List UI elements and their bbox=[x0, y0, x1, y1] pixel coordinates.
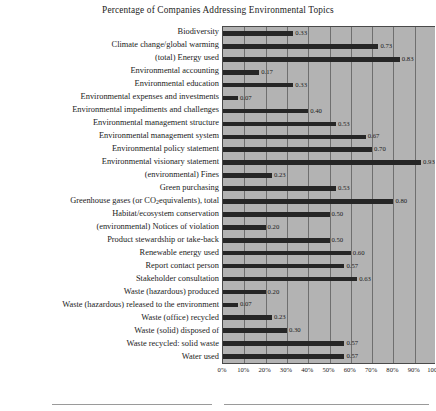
bar bbox=[223, 238, 330, 243]
bar-row: 0.80 bbox=[223, 195, 435, 208]
bar bbox=[223, 212, 330, 217]
bar bbox=[223, 96, 238, 101]
bar-value-label: 0.23 bbox=[274, 314, 286, 321]
category-label: Biodiversity bbox=[0, 26, 222, 39]
bar-row: 0.53 bbox=[223, 182, 435, 195]
x-tick-label: 60% bbox=[344, 366, 356, 373]
bar-value-label: 0.30 bbox=[289, 327, 301, 334]
chart-page: Percentage of Companies Addressing Envir… bbox=[0, 0, 436, 411]
category-label: Waste (hazardous) released to the enviro… bbox=[0, 299, 222, 312]
bar bbox=[223, 303, 238, 308]
bar-value-label: 0.53 bbox=[338, 185, 350, 192]
x-tick-label: 70% bbox=[365, 366, 377, 373]
bar-value-label: 0.50 bbox=[332, 237, 344, 244]
bar-value-label: 0.63 bbox=[359, 276, 371, 283]
bar-value-label: 0.57 bbox=[346, 263, 358, 270]
bar-row: 0.83 bbox=[223, 53, 435, 66]
bar bbox=[223, 57, 400, 62]
bar-value-label: 0.33 bbox=[295, 82, 307, 89]
bar-value-label: 0.67 bbox=[368, 133, 380, 140]
bar-value-label: 0.33 bbox=[295, 30, 307, 37]
bar-row: 0.20 bbox=[223, 221, 435, 234]
bar-value-label: 0.07 bbox=[240, 301, 252, 308]
category-label: (total) Energy used bbox=[0, 52, 222, 65]
category-label: Environmental expenses and investments bbox=[0, 91, 222, 104]
category-label: Environmental visionary statement bbox=[0, 156, 222, 169]
bar bbox=[223, 199, 393, 204]
bar bbox=[223, 186, 336, 191]
bar bbox=[223, 135, 366, 140]
bar bbox=[223, 31, 293, 36]
bar-row: 0.20 bbox=[223, 285, 435, 298]
category-label: Environmental policy statement bbox=[0, 143, 222, 156]
bar bbox=[223, 277, 357, 282]
chart-title: Percentage of Companies Addressing Envir… bbox=[0, 5, 436, 15]
bar-value-label: 0.20 bbox=[268, 224, 280, 231]
category-label: (environmental) Fines bbox=[0, 169, 222, 182]
x-tick-label: 40% bbox=[301, 366, 313, 373]
footer-divider-right bbox=[224, 404, 429, 405]
bar-row: 0.60 bbox=[223, 247, 435, 260]
bar-row: 0.07 bbox=[223, 298, 435, 311]
category-label: Climate change/global warming bbox=[0, 39, 222, 52]
bar-value-label: 0.17 bbox=[261, 69, 273, 76]
x-tick-label: 50% bbox=[322, 366, 334, 373]
bar-row: 0.40 bbox=[223, 105, 435, 118]
bar-row: 0.70 bbox=[223, 143, 435, 156]
bar-row: 0.63 bbox=[223, 273, 435, 286]
x-tick-label: 80% bbox=[386, 366, 398, 373]
bar bbox=[223, 264, 344, 269]
bar-value-label: 0.73 bbox=[380, 43, 392, 50]
category-axis-labels: BiodiversityClimate change/global warmin… bbox=[0, 26, 222, 364]
bar-row: 0.93 bbox=[223, 156, 435, 169]
category-label: Environmental impediments and challenges bbox=[0, 104, 222, 117]
x-tick-label: 10% bbox=[237, 366, 249, 373]
category-label: Stakeholder consultation bbox=[0, 273, 222, 286]
bar-row: 0.23 bbox=[223, 311, 435, 324]
bar-value-label: 0.83 bbox=[402, 56, 414, 63]
bar-row: 0.50 bbox=[223, 234, 435, 247]
bar-row: 0.33 bbox=[223, 27, 435, 40]
category-label: Waste (hazardous) produced bbox=[0, 286, 222, 299]
bar-value-label: 0.40 bbox=[310, 108, 322, 115]
bar-value-label: 0.20 bbox=[268, 289, 280, 296]
bar-value-label: 0.07 bbox=[240, 95, 252, 102]
bar-row: 0.07 bbox=[223, 92, 435, 105]
bar-row: 0.57 bbox=[223, 350, 435, 363]
category-label: Water used bbox=[0, 351, 222, 364]
bar bbox=[223, 354, 344, 359]
bar bbox=[223, 70, 259, 75]
bar-row: 0.23 bbox=[223, 169, 435, 182]
bar-row: 0.50 bbox=[223, 208, 435, 221]
category-label: Environmental management structure bbox=[0, 117, 222, 130]
bar-row: 0.33 bbox=[223, 79, 435, 92]
bar-value-label: 0.23 bbox=[274, 172, 286, 179]
category-label: Product stewardship or take-back bbox=[0, 234, 222, 247]
x-tick-label: 20% bbox=[259, 366, 271, 373]
bar-series: 0.330.730.830.170.330.070.400.530.670.70… bbox=[223, 27, 435, 363]
bar-value-label: 0.50 bbox=[332, 211, 344, 218]
bar-value-label: 0.70 bbox=[374, 146, 386, 153]
category-label: Environmental accounting bbox=[0, 65, 222, 78]
x-tick-label: 0% bbox=[218, 366, 227, 373]
category-label: Renewable energy used bbox=[0, 247, 222, 260]
bar-row: 0.53 bbox=[223, 117, 435, 130]
bar-value-label: 0.57 bbox=[346, 340, 358, 347]
bar-row: 0.17 bbox=[223, 66, 435, 79]
category-label: Habitat/ecosystem conservation bbox=[0, 208, 222, 221]
category-label: Green purchasing bbox=[0, 182, 222, 195]
category-label: (environmental) Notices of violation bbox=[0, 221, 222, 234]
category-label: Environmental management system bbox=[0, 130, 222, 143]
bar-value-label: 0.60 bbox=[353, 250, 365, 257]
bar bbox=[223, 122, 336, 127]
footer-divider-left bbox=[52, 404, 212, 405]
bar bbox=[223, 109, 308, 114]
category-label: Greenhouse gases (or CO2 equivalents), t… bbox=[0, 195, 222, 208]
bar-value-label: 0.57 bbox=[346, 353, 358, 360]
chart-plot-region: BiodiversityClimate change/global warmin… bbox=[0, 26, 436, 366]
bar-row: 0.73 bbox=[223, 40, 435, 53]
x-tick-label: 30% bbox=[280, 366, 292, 373]
category-label: Report contact person bbox=[0, 260, 222, 273]
bar bbox=[223, 225, 266, 230]
category-label: Waste recycled: solid waste bbox=[0, 338, 222, 351]
